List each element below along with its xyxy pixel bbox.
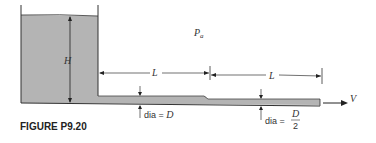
arrow-icon bbox=[204, 71, 209, 75]
length-2-label: L bbox=[268, 70, 275, 81]
arrow-icon bbox=[138, 105, 142, 109]
figure-caption: FIGURE P9.20 bbox=[20, 121, 87, 132]
arrow-right-icon bbox=[341, 100, 348, 106]
dia-2-numerator: D bbox=[291, 108, 300, 119]
length-1-label: L bbox=[151, 67, 158, 78]
arrow-icon bbox=[99, 71, 104, 75]
ambient-pressure-label: Pa bbox=[193, 27, 204, 40]
length-2-line-right bbox=[279, 75, 321, 76]
height-label: H bbox=[63, 55, 72, 66]
dia-1-label: dia = D bbox=[144, 109, 174, 120]
arrow-icon bbox=[211, 73, 216, 77]
velocity-label: V bbox=[350, 93, 358, 104]
arrow-icon bbox=[259, 106, 263, 110]
dia-2-denominator: 2 bbox=[293, 121, 298, 131]
dia-2-prefix: dia = bbox=[265, 116, 285, 126]
pipe-flow-diagram: H Pa L L dia = D dia = D 2 V FIGURE P9.2… bbox=[0, 0, 376, 143]
arrow-icon bbox=[259, 95, 263, 99]
arrow-icon bbox=[138, 92, 142, 96]
arrow-icon bbox=[316, 74, 321, 78]
